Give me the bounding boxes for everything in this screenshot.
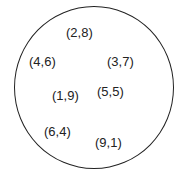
element-4-6: (4,6)	[29, 55, 56, 68]
element-6-4: (6,4)	[44, 125, 71, 138]
element-1-9: (1,9)	[52, 89, 79, 102]
set-boundary-circle	[14, 6, 174, 169]
element-5-5: (5,5)	[97, 85, 124, 98]
element-2-8: (2,8)	[66, 26, 93, 39]
element-3-7: (3,7)	[107, 55, 134, 68]
element-9-1: (9,1)	[95, 136, 122, 149]
